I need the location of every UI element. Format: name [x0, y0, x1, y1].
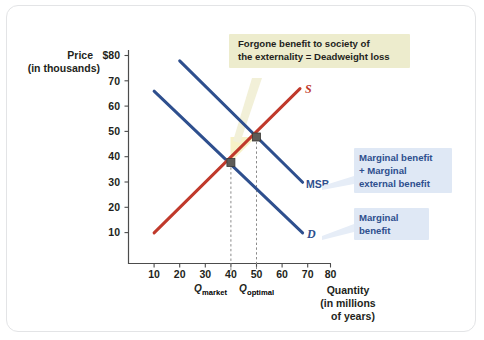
deadweight-loss-callout-line1: Forgone benefit to society of [238, 38, 370, 49]
x-tick-label: 60 [276, 268, 288, 280]
x-axis-title-line2: (in millions [320, 297, 376, 309]
msb-legend-line1: Marginal benefit [359, 152, 433, 163]
y-axis-title-line2: (in thousands) [28, 62, 100, 74]
x-tick-label: 80 [325, 268, 337, 280]
x-tick-label: 10 [148, 268, 160, 280]
x-tick-label: 50 [251, 268, 263, 280]
q-optimal-subscript: optimal [247, 288, 274, 297]
y-tick-label: 60 [108, 100, 120, 112]
y-tick-label: 70 [108, 75, 120, 87]
curve-label-demand: D [306, 227, 316, 241]
y-axis-tick-labels: $80 70 60 50 40 30 20 10 [102, 49, 120, 238]
y-tick-label: $80 [102, 49, 120, 61]
deadweight-loss-callout-line2: the externality = Deadweight loss [238, 51, 390, 62]
demand-legend-line1: Marginal [359, 212, 398, 223]
y-axis-title: Price (in thousands) [28, 49, 100, 74]
x-tick-label: 70 [302, 268, 314, 280]
q-optimal-symbol: Q [239, 283, 247, 294]
externality-deadweight-loss-chart: $80 70 60 50 40 30 20 10 Price (in thous… [0, 0, 484, 340]
x-axis-title: Quantity (in millions of years) [320, 284, 376, 322]
y-tick-label: 10 [108, 226, 120, 238]
y-axis-title-line1: Price [67, 49, 93, 61]
x-axis-title-line3: of years) [331, 310, 375, 322]
marker-q-optimal [253, 133, 261, 141]
x-axis-title-line1: Quantity [327, 284, 370, 296]
curve-label-supply: S [305, 82, 312, 96]
msb-legend-line3: external benefit [359, 178, 431, 189]
msb-legend-line2: + Marginal [359, 165, 407, 176]
y-tick-label: 50 [108, 125, 120, 137]
x-tick-label: 20 [174, 268, 186, 280]
demand-legend-pointer [322, 224, 354, 240]
y-tick-label: 40 [108, 150, 120, 162]
y-tick-label: 20 [108, 201, 120, 213]
q-market-symbol: Q [194, 283, 202, 294]
x-tick-label: 30 [199, 268, 211, 280]
q-optimal-label: Q optimal [239, 283, 274, 297]
y-tick-label: 30 [108, 176, 120, 188]
demand-legend-line2: benefit [359, 225, 391, 236]
curve-msb [180, 61, 303, 182]
q-market-subscript: market [202, 288, 227, 297]
marker-q-market [227, 159, 235, 167]
x-axis-tick-labels: 10 20 30 40 50 60 70 80 [148, 268, 336, 280]
q-market-label: Q market [194, 283, 227, 297]
